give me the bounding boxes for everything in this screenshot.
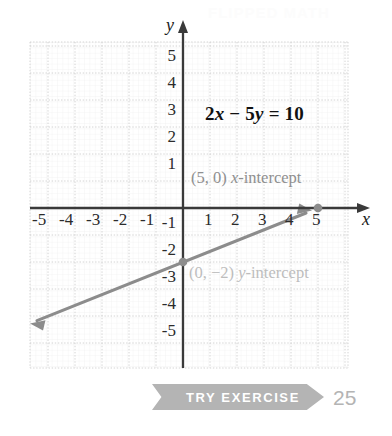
x-tick--4: -4: [59, 211, 73, 228]
equation-var-y: y: [255, 103, 264, 124]
y-tick--2: -2: [152, 241, 176, 258]
graph-figure: FLIPPED MATH: [0, 0, 392, 436]
y-intercept-suffix: -intercept: [246, 263, 309, 282]
try-exercise-number[interactable]: 25: [333, 387, 356, 408]
y-tick-1: 1: [154, 155, 176, 172]
equation-var-x: x: [215, 103, 225, 124]
x-tick-4: 4: [285, 211, 294, 228]
x-tick--5: -5: [32, 211, 46, 228]
x-axis-label: x: [362, 210, 370, 228]
y-intercept-point-text: (0, −2): [189, 263, 238, 282]
y-intercept-var: y: [238, 263, 245, 282]
y-intercept-point: [179, 258, 188, 267]
y-axis-label: y: [166, 16, 174, 34]
try-exercise-banner[interactable]: TRY EXERCISE 25: [152, 384, 356, 410]
y-tick--3: -3: [152, 268, 176, 285]
y-intercept-callout: (0, −2) y-intercept: [189, 265, 309, 282]
equation-coeff-1: 2: [205, 103, 215, 124]
x-tick--2: -2: [113, 211, 127, 228]
equation-label: 2x − 5y = 10: [205, 104, 304, 123]
equation-coeff-2: − 5: [224, 103, 255, 124]
y-tick-3: 3: [154, 101, 176, 118]
x-intercept-point-text: (5, 0): [191, 168, 231, 187]
x-intercept-suffix: -intercept: [238, 168, 301, 187]
x-tick-5: 5: [312, 211, 321, 228]
try-exercise-chevron[interactable]: TRY EXERCISE: [152, 384, 324, 410]
x-intercept-callout: (5, 0) x-intercept: [191, 170, 301, 187]
y-tick-2: 2: [154, 128, 176, 145]
x-tick-2: 2: [231, 211, 240, 228]
y-tick-4: 4: [154, 74, 176, 91]
x-tick-3: 3: [258, 211, 267, 228]
x-tick-1: 1: [204, 211, 213, 228]
y-tick--1: -1: [152, 214, 176, 231]
y-tick--5: -5: [152, 322, 176, 339]
try-exercise-label: TRY EXERCISE: [186, 390, 300, 405]
y-tick-5: 5: [154, 47, 176, 64]
x-tick--3: -3: [86, 211, 100, 228]
y-tick--4: -4: [152, 295, 176, 312]
y-axis-arrow: [178, 20, 188, 33]
equation-rhs: = 10: [264, 103, 304, 124]
